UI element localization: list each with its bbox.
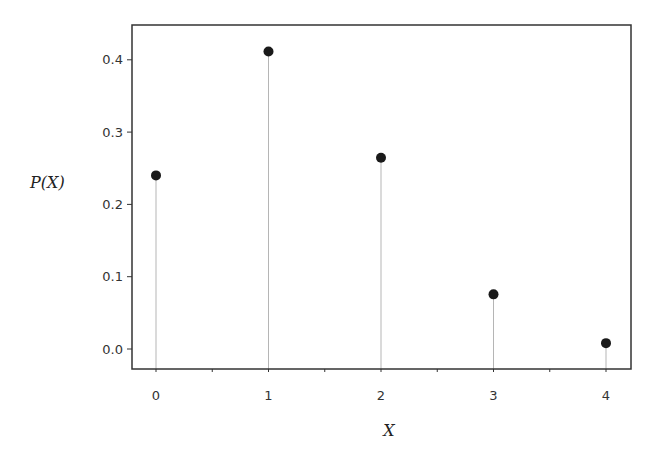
x-tick-label: 4 [602, 388, 610, 403]
y-tick-label: 0.2 [102, 197, 123, 212]
stem-lines [156, 51, 606, 369]
x-axis-ticks: 01234 [152, 369, 610, 403]
x-tick-label: 1 [264, 388, 272, 403]
y-tick-label: 0.0 [102, 342, 123, 357]
stem-chart: 0.00.10.20.30.4 01234 P(X) X [0, 0, 671, 461]
data-point [376, 153, 386, 163]
data-point [151, 170, 161, 180]
x-tick-label: 0 [152, 388, 160, 403]
y-axis-ticks: 0.00.10.20.30.4 [102, 52, 132, 356]
x-axis-label: X [381, 421, 395, 440]
data-point [601, 338, 611, 348]
y-tick-label: 0.4 [102, 52, 123, 67]
y-tick-label: 0.1 [102, 269, 123, 284]
x-tick-label: 2 [377, 388, 385, 403]
y-tick-label: 0.3 [102, 125, 123, 140]
data-point [264, 46, 274, 56]
data-point [489, 289, 499, 299]
y-axis-label: P(X) [29, 173, 65, 192]
x-tick-label: 3 [489, 388, 497, 403]
